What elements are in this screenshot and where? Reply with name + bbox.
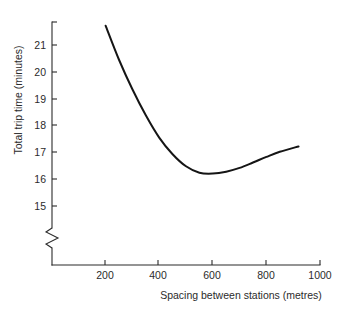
y-tick-label-21: 21: [34, 39, 46, 51]
x-axis-ticks: [105, 260, 266, 265]
y-tick-label-16: 16: [34, 173, 46, 185]
y-tick-label-17: 17: [34, 146, 46, 158]
x-axis-tick-labels: 200 400 600 800 1000: [96, 269, 332, 281]
y-axis-title: Total trip time (minutes): [12, 45, 24, 154]
x-tick-label-600: 600: [203, 269, 221, 281]
x-tick-label-200: 200: [96, 269, 114, 281]
y-tick-label-19: 19: [34, 93, 46, 105]
x-axis-title: Spacing between stations (metres): [160, 289, 322, 301]
y-tick-label-15: 15: [34, 200, 46, 212]
y-axis-break-icon: [46, 228, 58, 248]
x-tick-label-400: 400: [149, 269, 167, 281]
x-tick-label-800: 800: [257, 269, 275, 281]
y-tick-label-20: 20: [34, 66, 46, 78]
line-chart: 21 20 19 18 17 16 15 200 400 600 800 100…: [0, 0, 342, 312]
y-axis-ticks: [52, 45, 57, 206]
x-tick-label-1000: 1000: [308, 269, 332, 281]
y-axis-tick-labels: 21 20 19 18 17 16 15: [34, 39, 46, 212]
chart-figure: 21 20 19 18 17 16 15 200 400 600 800 100…: [0, 0, 342, 312]
y-tick-label-18: 18: [34, 119, 46, 131]
trip-time-curve: [106, 26, 299, 174]
